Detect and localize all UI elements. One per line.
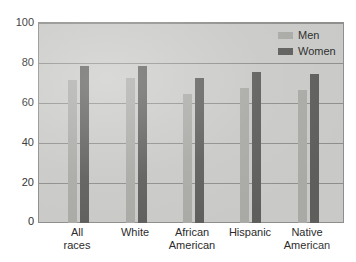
x-label-african-american: African American xyxy=(169,226,215,252)
y-tick-label: 0 xyxy=(0,216,34,227)
bar-men-african-american xyxy=(183,94,192,223)
x-label-native-american: Native American xyxy=(284,226,330,252)
x-label-line1: White xyxy=(121,226,149,238)
legend-label-women: Women xyxy=(298,45,336,57)
legend-swatch-icon-men xyxy=(278,32,293,39)
legend-swatch-icon-women xyxy=(278,48,293,55)
bar-men-white xyxy=(126,78,135,223)
x-label-line1: Native xyxy=(291,226,322,238)
bar-men-all-races xyxy=(68,80,77,223)
x-label-line2: American xyxy=(284,239,330,252)
legend: Men Women xyxy=(278,28,352,60)
legend-label-men: Men xyxy=(298,29,319,41)
y-tick-label: 100 xyxy=(0,17,34,28)
x-label-all-races: All races xyxy=(64,226,91,252)
bar-chart: 100 80 60 40 20 0 xyxy=(0,0,356,262)
y-tick-label: 80 xyxy=(0,57,34,68)
y-tick-label: 20 xyxy=(0,177,34,188)
x-label-hispanic: Hispanic xyxy=(229,226,271,239)
bar-women-native-american xyxy=(310,74,319,223)
y-tick-label: 40 xyxy=(0,137,34,148)
bar-men-native-american xyxy=(298,90,307,223)
bar-women-hispanic xyxy=(252,72,261,223)
x-axis: All races White African American Hispani… xyxy=(38,226,344,260)
x-label-line1: African xyxy=(175,226,209,238)
x-label-line1: All xyxy=(71,226,83,238)
legend-item-men: Men xyxy=(278,28,352,42)
bar-women-white xyxy=(138,66,147,223)
y-tick-label: 60 xyxy=(0,97,34,108)
legend-item-women: Women xyxy=(278,44,352,58)
bar-women-african-american xyxy=(195,78,204,223)
x-label-line1: Hispanic xyxy=(229,226,271,238)
bar-women-all-races xyxy=(80,66,89,223)
x-label-line2: races xyxy=(64,239,91,252)
x-label-white: White xyxy=(121,226,149,239)
x-label-line2: American xyxy=(169,239,215,252)
bar-men-hispanic xyxy=(240,88,249,223)
